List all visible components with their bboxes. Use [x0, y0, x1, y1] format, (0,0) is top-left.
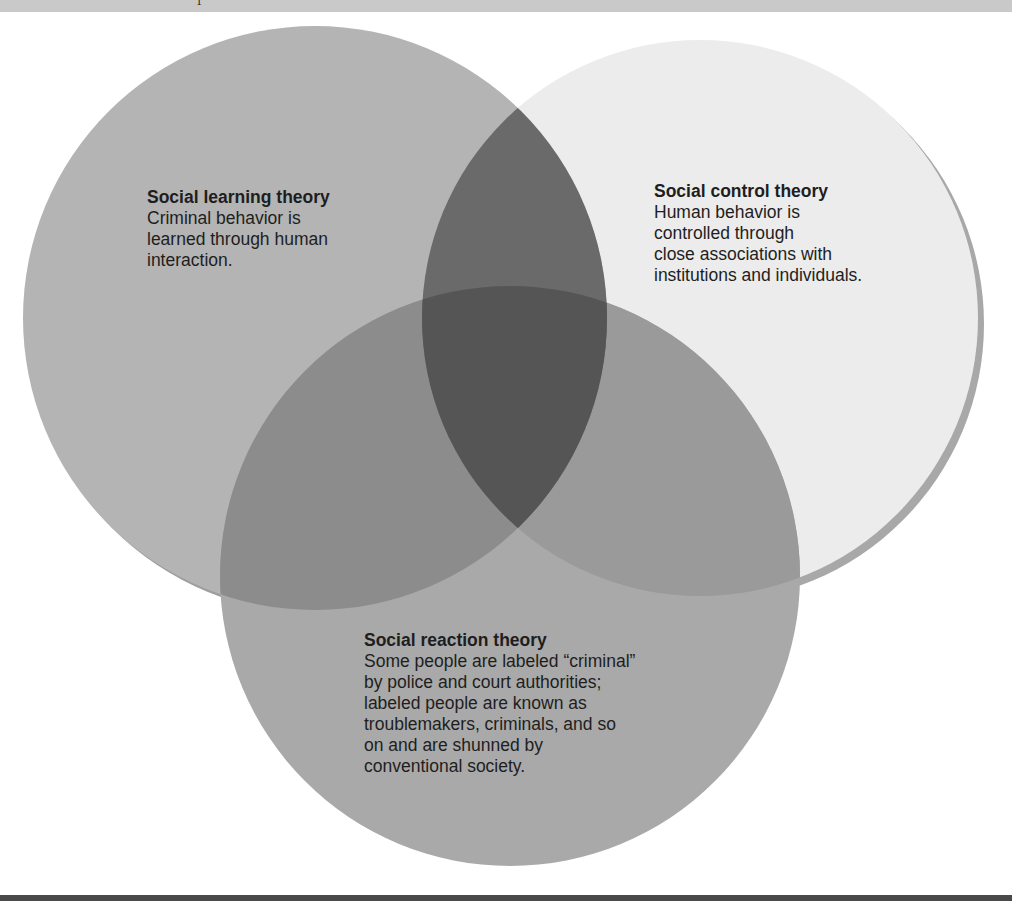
learning-theory-line: learned through human [147, 229, 397, 250]
reaction-theory-line: Some people are labeled “criminal” [364, 651, 714, 672]
control-theory-line: close associations with [654, 244, 984, 265]
control-theory-line: institutions and individuals. [654, 265, 984, 286]
control-theory-line: controlled through [654, 223, 984, 244]
control-theory-title: Social control theory [654, 181, 984, 202]
control-theory-line: Human behavior is [654, 202, 984, 223]
reaction-theory-line: conventional society. [364, 756, 714, 777]
reaction-theory-title: Social reaction theory [364, 630, 714, 651]
learning-theory-title: Social learning theory [147, 187, 397, 208]
reaction-theory-line: on and are shunned by [364, 735, 714, 756]
learning-theory-label: Social learning theory Criminal behavior… [147, 187, 397, 271]
learning-theory-line: interaction. [147, 250, 397, 271]
reaction-theory-line: by police and court authorities; [364, 672, 714, 693]
learning-theory-line: Criminal behavior is [147, 208, 397, 229]
reaction-theory-line: labeled people are known as [364, 693, 714, 714]
control-theory-label: Social control theory Human behavior is … [654, 181, 984, 286]
reaction-theory-label: Social reaction theory Some people are l… [364, 630, 714, 777]
bottom-rule [0, 895, 1012, 901]
reaction-theory-line: troublemakers, criminals, and so [364, 714, 714, 735]
